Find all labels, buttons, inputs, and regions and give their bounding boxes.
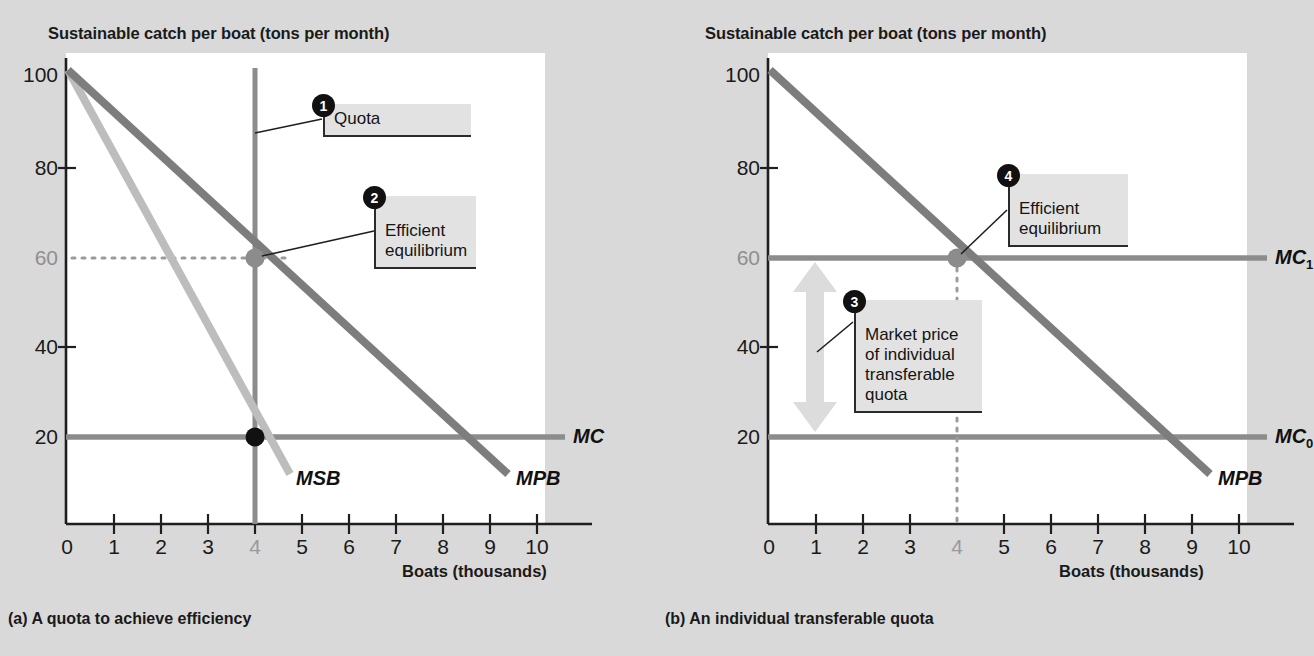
panel-b-curve-label-mc1: MC1 bbox=[1275, 247, 1313, 271]
panel-b-ytick-label-100: 100 bbox=[708, 64, 760, 85]
panel-b-xtick-label-5: 5 bbox=[991, 536, 1017, 557]
panel-b-xtick-label-2: 2 bbox=[850, 536, 876, 557]
panel-b-market-price-arrow bbox=[793, 262, 837, 432]
panel-b-curve-label-mc1-base: MC bbox=[1275, 246, 1306, 268]
panel-b-ytick-label-40: 40 bbox=[708, 336, 760, 357]
panel-b-xtick-label-9: 9 bbox=[1179, 536, 1205, 557]
panel-a-callout-quota-text: Quota bbox=[334, 109, 380, 128]
panel-a-leader-line-efficient bbox=[262, 231, 374, 256]
panel-b-curve-label-mc0-base: MC bbox=[1275, 425, 1306, 447]
panel-a-curve-label-mpb: MPB bbox=[516, 468, 560, 488]
panel-a-callout-efficient-equilibrium: Efficient equilibrium bbox=[374, 196, 476, 269]
panel-a-xtick-label-4: 4 bbox=[242, 536, 268, 557]
panel-b-curve-label-mc1-sub: 1 bbox=[1306, 257, 1313, 272]
figure-container: Sustainable catch per boat (tons per mon… bbox=[0, 0, 1314, 656]
panel-b-curve-label-mc0-sub: 0 bbox=[1306, 436, 1313, 451]
panel-b-caption: (b) An individual transferable quota bbox=[665, 610, 934, 628]
panel-a-ytick-label-80: 80 bbox=[6, 157, 58, 178]
panel-a-curve-label-msb: MSB bbox=[296, 468, 340, 488]
panel-a-ytick-label-40: 40 bbox=[6, 336, 58, 357]
panel-a-callout-efficient-equilibrium-text: Efficient equilibrium bbox=[385, 221, 467, 260]
panel-a-xtick-label-8: 8 bbox=[430, 536, 456, 557]
panel-a-xtick-label-1: 1 bbox=[101, 536, 127, 557]
panel-b-mpb-curve bbox=[770, 70, 1210, 474]
panel-a-xtick-label-3: 3 bbox=[195, 536, 221, 557]
panel-a-callout-quota: Quota bbox=[323, 104, 471, 137]
panel-a-ytick-label-100: 100 bbox=[6, 64, 58, 85]
panel-b-curve-label-mpb: MPB bbox=[1218, 468, 1262, 488]
panel-a-xtick-label-10: 10 bbox=[524, 536, 550, 557]
panel-a-leader-line-quota bbox=[255, 119, 322, 133]
panel-b-callout-market-price: Market price of individual transferable … bbox=[854, 300, 982, 413]
panel-a-callout-badge-2: 2 bbox=[363, 186, 386, 209]
panel-a-callout-badge-1: 1 bbox=[312, 94, 335, 117]
panel-a-x-axis-title: Boats (thousands) bbox=[402, 562, 547, 581]
panel-b-xtick-label-4: 4 bbox=[944, 536, 970, 557]
panel-b-callout-badge-4: 4 bbox=[997, 164, 1020, 187]
panel-a-xtick-label-9: 9 bbox=[477, 536, 503, 557]
panel-b-xtick-label-10: 10 bbox=[1226, 536, 1252, 557]
panel-a-xtick-label-0: 0 bbox=[54, 536, 80, 557]
panel-b-xtick-label-0: 0 bbox=[756, 536, 782, 557]
panel-a-xtick-label-5: 5 bbox=[289, 536, 315, 557]
panel-b-curve-label-mc0: MC0 bbox=[1275, 426, 1313, 450]
panel-b-ytick-label-80: 80 bbox=[708, 157, 760, 178]
panel-b-leader-line-efficient bbox=[961, 210, 1007, 254]
panel-b-x-axis-title: Boats (thousands) bbox=[1059, 562, 1204, 581]
panel-a-ytick-label-20: 20 bbox=[6, 426, 58, 447]
panel-b-plot bbox=[657, 0, 1314, 656]
panel-a-efficient-equilibrium-marker bbox=[246, 249, 265, 268]
panel-a-xtick-label-6: 6 bbox=[336, 536, 362, 557]
panel-b-ytick-label-60: 60 bbox=[708, 247, 760, 268]
panel-a-curve-label-mc: MC bbox=[573, 426, 604, 446]
panel-b-ytick-label-20: 20 bbox=[708, 426, 760, 447]
panel-a-xtick-label-2: 2 bbox=[148, 536, 174, 557]
panel-b-callout-market-price-text: Market price of individual transferable … bbox=[865, 325, 959, 404]
panel-a-msb-mc-intersection-marker bbox=[246, 428, 265, 447]
panel-b-xtick-label-3: 3 bbox=[897, 536, 923, 557]
panel-a: Sustainable catch per boat (tons per mon… bbox=[0, 0, 657, 656]
panel-b-xtick-label-1: 1 bbox=[803, 536, 829, 557]
panel-a-caption: (a) A quota to achieve efficiency bbox=[8, 610, 251, 628]
panel-b-xtick-label-6: 6 bbox=[1038, 536, 1064, 557]
panel-b-callout-badge-3: 3 bbox=[843, 290, 866, 313]
panel-b-callout-efficient-equilibrium-text: Efficient equilibrium bbox=[1019, 199, 1101, 238]
panel-a-ytick-label-60: 60 bbox=[6, 247, 58, 268]
panel-b-xtick-label-7: 7 bbox=[1085, 536, 1111, 557]
panel-b-callout-efficient-equilibrium: Efficient equilibrium bbox=[1008, 174, 1128, 247]
panel-a-xtick-label-7: 7 bbox=[383, 536, 409, 557]
panel-b-xtick-label-8: 8 bbox=[1132, 536, 1158, 557]
panel-b: Sustainable catch per boat (tons per mon… bbox=[657, 0, 1314, 656]
